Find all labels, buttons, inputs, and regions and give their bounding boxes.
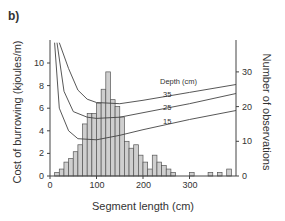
histogram-bar: [59, 169, 64, 176]
legend-title: Depth (cm): [160, 77, 198, 86]
histogram-bar: [166, 169, 171, 176]
histogram-bar: [143, 162, 148, 176]
histogram-bar: [73, 152, 78, 176]
histogram-bar: [157, 162, 162, 176]
y-right-tick-label: 30: [242, 67, 252, 77]
y-left-tick-label: 2: [39, 148, 44, 158]
y-axis-left-title: Cost of burrowing (kjoules/m): [11, 40, 23, 183]
histogram-bar: [110, 100, 115, 176]
y-left-tick-label: 8: [39, 81, 44, 91]
histogram-bar: [152, 155, 157, 176]
histogram-bar: [69, 159, 74, 176]
histogram-bar: [64, 162, 69, 176]
x-tick-label: 300: [182, 180, 197, 190]
y-right-tick-label: 10: [242, 136, 252, 146]
histogram-bar: [148, 169, 153, 176]
histogram-bar: [217, 173, 222, 176]
histogram-bar: [55, 173, 60, 176]
y-axis-right-title: Number of observations: [261, 54, 273, 171]
x-tick-label: 200: [136, 180, 151, 190]
curve-label-25: 25: [163, 103, 171, 112]
histogram-bar: [190, 173, 195, 176]
x-axis-title: Segment length (cm): [92, 200, 194, 212]
depth-curve-25: [57, 43, 236, 119]
chart: b) 0 100 200 300 0 2 4 6 8 10 0 10 20 30…: [0, 0, 285, 221]
histogram-bar: [208, 173, 213, 176]
y-left-tick-label: 6: [39, 103, 44, 113]
x-tick-label: 100: [89, 180, 104, 190]
curve-label-15: 15: [163, 117, 171, 126]
histogram-bar: [92, 114, 97, 176]
y-right-tick-label: 0: [242, 171, 247, 181]
histogram-bar: [101, 89, 106, 176]
x-tick-label: 0: [47, 180, 52, 190]
histogram: [55, 72, 232, 176]
histogram-bar: [134, 145, 139, 176]
histogram-bar: [162, 166, 167, 176]
curve-label-35: 35: [163, 90, 171, 99]
histogram-bar: [87, 114, 92, 176]
panel-label: b): [8, 9, 19, 23]
histogram-bar: [106, 72, 111, 176]
histogram-bar: [83, 124, 88, 176]
histogram-bar: [120, 117, 125, 176]
depth-curves: [55, 43, 236, 140]
histogram-bar: [227, 169, 232, 176]
histogram-bar: [78, 145, 83, 176]
depth-curve-15: [55, 43, 236, 140]
histogram-bar: [138, 155, 143, 176]
y-left-tick-label: 10: [34, 58, 44, 68]
y-left-tick-label: 0: [39, 171, 44, 181]
depth-curve-35: [59, 43, 236, 104]
y-right-tick-label: 20: [242, 102, 252, 112]
histogram-bar: [171, 173, 176, 176]
histogram-bar: [124, 141, 129, 176]
y-left-tick-label: 4: [39, 126, 44, 136]
histogram-bar: [129, 148, 134, 176]
